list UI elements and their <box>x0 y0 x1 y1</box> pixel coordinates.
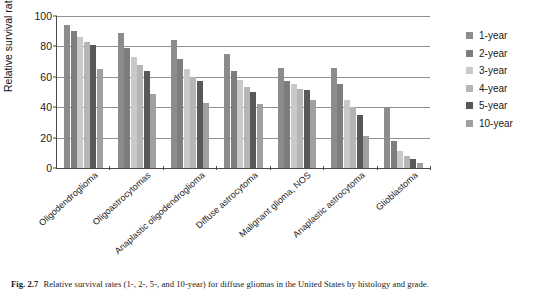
x-tick-mark <box>430 166 431 170</box>
bar <box>284 81 290 168</box>
legend-label: 5-year <box>479 100 507 111</box>
bar <box>237 80 243 168</box>
bar <box>357 115 363 168</box>
y-axis-title: Relative survival rate (%) <box>2 0 14 92</box>
bars-layer <box>57 16 430 168</box>
bar-group <box>377 16 430 168</box>
bar <box>137 65 143 168</box>
legend-item: 1-year <box>466 27 546 45</box>
bar <box>197 81 203 168</box>
bar <box>350 107 356 168</box>
bar <box>190 77 196 168</box>
y-tick-label: 20 <box>40 132 52 144</box>
figure-caption-text: Relative survival rates (1-, 2-, 5-, and… <box>43 279 428 289</box>
bar <box>184 69 190 168</box>
bar <box>384 107 390 168</box>
bar <box>257 104 263 168</box>
y-tick-label: 100 <box>34 10 52 22</box>
bar <box>404 156 410 168</box>
y-tick-label: 40 <box>40 101 52 113</box>
bar <box>90 45 96 168</box>
x-axis-labels: OligodendrogliomaOligoastrocytomasAnapla… <box>56 170 430 275</box>
bar <box>77 37 83 168</box>
x-axis-label: Anaplastic oligodendroglioma <box>112 170 206 256</box>
bar <box>397 151 403 168</box>
legend-label: 2-year <box>479 48 507 59</box>
legend-swatch-icon <box>466 85 473 92</box>
chart-legend: 1-year2-year3-year4-year5-year10-year <box>466 27 546 132</box>
bar <box>203 103 209 168</box>
bar <box>224 54 230 168</box>
bar <box>291 84 297 168</box>
bar <box>337 84 343 168</box>
figure-container: Relative survival rate (%) 020406080100 … <box>0 0 555 299</box>
bar <box>150 94 156 168</box>
legend-label: 3-year <box>479 65 507 76</box>
bar <box>297 89 303 168</box>
bar-group <box>110 16 163 168</box>
bar <box>391 141 397 168</box>
y-tick-label: 60 <box>40 71 52 83</box>
bar <box>344 100 350 168</box>
x-tick-mark <box>323 166 324 170</box>
y-tick-label: 0 <box>46 162 52 174</box>
y-tick-label: 80 <box>40 40 52 52</box>
x-tick-mark <box>163 166 164 170</box>
bar-group <box>57 16 110 168</box>
bar <box>304 90 310 168</box>
bar <box>71 31 77 168</box>
legend-label: 1-year <box>479 30 507 41</box>
bar-group <box>270 16 323 168</box>
bar <box>244 87 250 168</box>
bar-group <box>164 16 217 168</box>
legend-item: 5-year <box>466 97 546 115</box>
legend-label: 10-year <box>479 118 513 129</box>
bar <box>231 71 237 168</box>
legend-label: 4-year <box>479 83 507 94</box>
figure-number: Fig. 2.7 <box>11 279 38 289</box>
legend-swatch-icon <box>466 102 473 109</box>
bar <box>97 69 103 168</box>
bar <box>278 68 284 168</box>
bar <box>410 159 416 168</box>
bar <box>250 92 256 168</box>
legend-item: 2-year <box>466 45 546 63</box>
plot-area: 020406080100 <box>56 16 430 169</box>
legend-item: 10-year <box>466 115 546 133</box>
bar <box>131 57 137 168</box>
bar <box>144 71 150 168</box>
legend-swatch-icon <box>466 67 473 74</box>
legend-swatch-icon <box>466 32 473 39</box>
figure-caption: Fig. 2.7Relative survival rates (1-, 2-,… <box>11 279 549 289</box>
bar <box>310 100 316 168</box>
bar <box>124 48 130 168</box>
legend-swatch-icon <box>466 50 473 57</box>
bar <box>118 33 124 168</box>
x-tick-mark <box>270 166 271 170</box>
x-tick-mark <box>109 166 110 170</box>
bar <box>171 40 177 168</box>
legend-swatch-icon <box>466 120 473 127</box>
bar <box>84 42 90 168</box>
bar-group <box>217 16 270 168</box>
legend-item: 4-year <box>466 80 546 98</box>
bar <box>417 163 423 168</box>
bar-group <box>323 16 376 168</box>
bar <box>363 136 369 168</box>
bar <box>177 59 183 168</box>
bar <box>331 68 337 168</box>
legend-item: 3-year <box>466 62 546 80</box>
x-axis-label: Oligoastrocytomas <box>91 170 153 227</box>
x-tick-mark <box>216 166 217 170</box>
x-tick-mark <box>377 166 378 170</box>
bar <box>64 25 70 168</box>
x-axis-label: Glioblastoma <box>374 170 420 213</box>
